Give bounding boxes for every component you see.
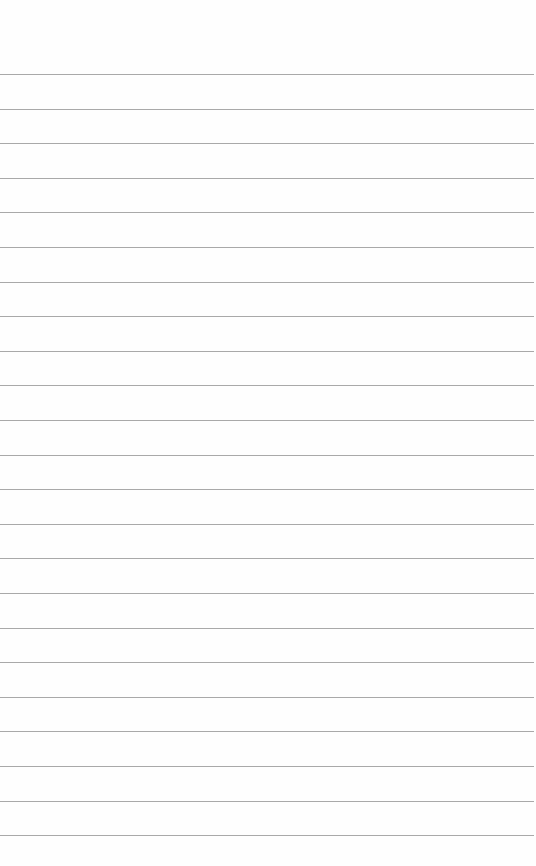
ruled-line xyxy=(0,801,534,802)
ruled-line xyxy=(0,697,534,698)
ruled-line xyxy=(0,143,534,144)
ruled-line xyxy=(0,316,534,317)
ruled-line xyxy=(0,628,534,629)
ruled-line xyxy=(0,489,534,490)
ruled-line xyxy=(0,766,534,767)
ruled-line xyxy=(0,420,534,421)
ruled-line xyxy=(0,835,534,836)
ruled-line xyxy=(0,455,534,456)
ruled-line xyxy=(0,351,534,352)
ruled-line xyxy=(0,282,534,283)
ruled-line xyxy=(0,524,534,525)
lined-paper-page xyxy=(0,0,536,866)
ruled-line xyxy=(0,385,534,386)
ruled-line xyxy=(0,662,534,663)
ruled-line xyxy=(0,558,534,559)
ruled-line xyxy=(0,178,534,179)
ruled-line xyxy=(0,593,534,594)
ruled-line xyxy=(0,247,534,248)
ruled-line xyxy=(0,212,534,213)
ruled-line xyxy=(0,731,534,732)
ruled-line xyxy=(0,109,534,110)
ruled-line xyxy=(0,74,534,75)
